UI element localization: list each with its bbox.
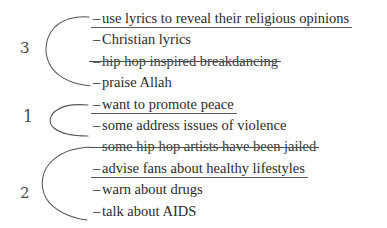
list-item: –praise Allah [93,72,385,93]
list-item: –some address issues of violence [93,115,385,136]
list-item-label: some address issues of violence [102,117,286,133]
list-item-content: –use lyrics to reveal their religious op… [93,8,349,29]
list-item-content: –talk about AIDS [93,201,196,222]
list-dash: – [93,94,102,115]
list-dash: – [93,201,102,222]
strikethrough-annotation [89,61,281,62]
list-item: –want to promote peace [93,94,385,115]
list-dash: – [93,29,102,50]
underline-annotation [91,177,308,178]
list-item-label: warn about drugs [102,181,203,197]
list-item-content: –some address issues of violence [93,115,286,136]
list-item-label: advise fans about healthy lifestyles [102,160,305,176]
list-item-content: –Christian lyrics [93,29,191,50]
underline-annotation [91,113,237,114]
list-item-content: –praise Allah [93,72,172,93]
list-dash: – [93,158,102,179]
list-item: –talk about AIDS [93,201,385,222]
list-item-label: use lyrics to reveal their religious opi… [102,10,349,26]
list-item-label: want to promote peace [102,96,234,112]
annotated-document: 3 1 2 –use lyrics to reveal their religi… [0,0,387,228]
list-item-label: Christian lyrics [102,31,191,47]
list-item-content: –advise fans about healthy lifestyles [93,158,305,179]
list-dash: – [93,72,102,93]
list-item: –some hip hop artists have been jailed [93,136,385,157]
list-item-label: praise Allah [102,74,172,90]
margin-number-two: 2 [20,186,30,201]
list-item: –advise fans about healthy lifestyles [93,158,385,179]
list-item: –Christian lyrics [93,29,385,50]
underline-annotation [91,27,352,28]
margin-number-three: 3 [20,41,30,56]
list-dash: – [93,8,102,29]
item-list: –use lyrics to reveal their religious op… [93,8,385,222]
list-dash: – [93,179,102,200]
brace-group-three [46,17,90,86]
list-item: –use lyrics to reveal their religious op… [93,8,385,29]
brace-group-one [50,105,88,136]
list-item: –warn about drugs [93,179,385,200]
list-item-label: talk about AIDS [102,203,196,219]
list-item: –hip hop inspired breakdancing [93,51,385,72]
margin-number-one: 1 [23,109,34,125]
brace-group-two [42,147,89,220]
list-item-content: –want to promote peace [93,94,234,115]
list-item-content: –warn about drugs [93,179,203,200]
strikethrough-annotation [89,147,319,148]
list-dash: – [93,115,102,136]
